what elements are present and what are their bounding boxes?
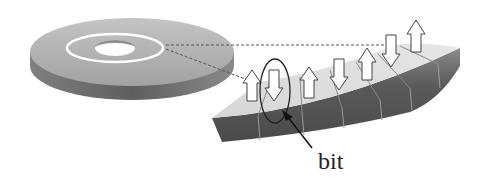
disk [30, 18, 234, 100]
bit-label: bit [318, 148, 343, 175]
disk-diagram [0, 0, 488, 186]
